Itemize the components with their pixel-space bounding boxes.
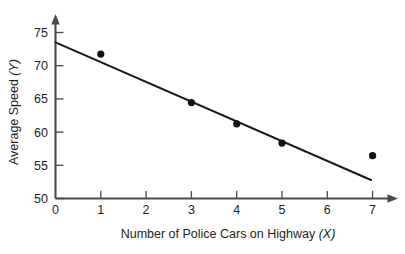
data-point-3 bbox=[233, 120, 240, 127]
y-tick-label-60: 60 bbox=[34, 126, 48, 140]
data-point-5 bbox=[369, 152, 376, 159]
y-tick-label-75: 75 bbox=[34, 26, 48, 40]
scatter-plot: 50 55 60 65 70 75 0 1 2 3 4 5 6 7 bbox=[0, 0, 405, 254]
y-axis-title-symbol: (Y) bbox=[7, 59, 21, 76]
y-tick-label-55: 55 bbox=[34, 159, 48, 173]
x-axis-tick-labels: 0 1 2 3 4 5 6 7 bbox=[52, 203, 376, 217]
data-point-4 bbox=[278, 140, 285, 147]
x-tick-label-0: 0 bbox=[52, 203, 59, 217]
x-axis-title: Number of Police Cars on Highway (X) bbox=[121, 227, 336, 241]
y-tick-label-70: 70 bbox=[34, 59, 48, 73]
x-axis-ticks bbox=[101, 191, 373, 199]
data-points bbox=[97, 51, 376, 160]
chart-figure: 50 55 60 65 70 75 0 1 2 3 4 5 6 7 bbox=[0, 0, 405, 254]
x-tick-label-6: 6 bbox=[324, 203, 331, 217]
y-axis-tick-labels: 50 55 60 65 70 75 bbox=[34, 26, 48, 206]
x-tick-label-1: 1 bbox=[97, 203, 104, 217]
y-tick-label-50: 50 bbox=[34, 192, 48, 206]
x-tick-label-2: 2 bbox=[143, 203, 150, 217]
x-axis-title-symbol: (X) bbox=[319, 227, 336, 241]
y-axis-arrowhead bbox=[51, 14, 59, 25]
x-axis-arrowhead bbox=[388, 194, 399, 202]
data-point-1 bbox=[97, 51, 104, 58]
regression-line bbox=[56, 42, 372, 180]
y-axis-ticks bbox=[56, 33, 64, 199]
y-axis-title-text: Average Speed bbox=[7, 79, 21, 165]
x-tick-label-5: 5 bbox=[279, 203, 286, 217]
x-axis-title-text: Number of Police Cars on Highway bbox=[121, 227, 316, 241]
data-point-2 bbox=[188, 99, 195, 106]
x-tick-label-7: 7 bbox=[369, 203, 376, 217]
y-axis-title: Average Speed (Y) bbox=[7, 59, 21, 165]
x-tick-label-4: 4 bbox=[233, 203, 240, 217]
x-tick-label-3: 3 bbox=[188, 203, 195, 217]
y-tick-label-65: 65 bbox=[34, 92, 48, 106]
